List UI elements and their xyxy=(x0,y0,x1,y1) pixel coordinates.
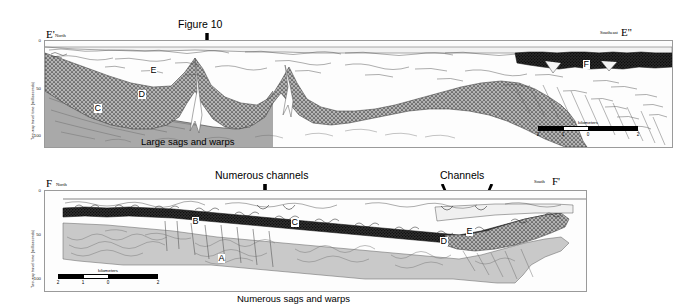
top-scalebar-bar xyxy=(538,126,638,131)
top-interior-note: Large sags and warps xyxy=(141,136,234,147)
scalebar-segment xyxy=(539,127,564,130)
bottom-right-end-label: F' xyxy=(552,176,560,187)
top-right-end-label: E'' xyxy=(621,27,632,38)
bottom-axis-tick-0: 0 xyxy=(34,188,41,193)
bottom-right-direction-label: South xyxy=(534,180,545,185)
top-scalebar-tick-1: 1 xyxy=(562,132,565,137)
figure-10-callout-label: Figure 10 xyxy=(178,18,222,30)
top-left-direction-label: North xyxy=(55,34,66,39)
bottom-scalebar-bar xyxy=(58,274,158,279)
bottom-scalebar: kilometers 2 1 0 2 xyxy=(58,268,158,290)
top-unit-label-F: F xyxy=(583,60,590,69)
bottom-axis-tick-100: 100 xyxy=(30,276,41,281)
scalebar-segment xyxy=(588,127,613,130)
top-left-end-label: E' xyxy=(46,29,55,40)
bottom-unit-label-B: B xyxy=(192,217,199,226)
bottom-axis-tick-50: 50 xyxy=(32,232,41,237)
scalebar-segment xyxy=(84,275,109,278)
scalebar-segment xyxy=(108,275,133,278)
scalebar-segment xyxy=(564,127,589,130)
top-axis-tick-0: 0 xyxy=(34,38,41,43)
top-right-direction-label: Southeast xyxy=(600,31,618,36)
bottom-panel: Numerous channels Channels F North South… xyxy=(0,160,675,305)
top-unit-label-E: E xyxy=(150,66,157,75)
bottom-unit-label-C: C xyxy=(291,218,299,227)
bottom-scalebar-tick-3: 2 xyxy=(157,280,160,285)
top-scalebar-ticks: 2 1 0 2 xyxy=(538,132,638,138)
bottom-interior-note: Numerous sags and warps xyxy=(237,293,350,304)
top-scalebar-tick-3: 2 xyxy=(637,132,640,137)
bottom-scalebar-title: kilometers xyxy=(58,268,158,273)
channels-callout-label: Channels xyxy=(440,169,484,181)
top-axis-tick-50: 50 xyxy=(32,86,41,91)
top-unit-label-D: D xyxy=(138,90,146,99)
bottom-scalebar-tick-0: 2 xyxy=(57,280,60,285)
bottom-scalebar-tick-2: 0 xyxy=(107,280,110,285)
scalebar-segment xyxy=(133,275,158,278)
bottom-left-end-label: F xyxy=(46,178,52,189)
top-scalebar-tick-0: 2 xyxy=(537,132,540,137)
scalebar-segment xyxy=(613,127,638,130)
top-panel: Figure 10 E' North Southeast E'' Two-way… xyxy=(0,0,675,160)
top-scalebar-title: kilometers xyxy=(538,120,638,125)
bottom-scalebar-ticks: 2 1 0 2 xyxy=(58,280,158,286)
seismic-profile-figure: Figure 10 E' North Southeast E'' Two-way… xyxy=(0,0,675,305)
numerous-channels-callout-label: Numerous channels xyxy=(215,169,308,181)
bottom-unit-label-A: A xyxy=(218,254,225,263)
bottom-scalebar-tick-1: 1 xyxy=(82,280,85,285)
top-unit-label-C: C xyxy=(94,104,102,113)
top-scalebar-tick-2: 0 xyxy=(587,132,590,137)
top-scalebar: kilometers 2 1 0 2 xyxy=(538,120,638,142)
bottom-left-direction-label: North xyxy=(56,183,67,188)
bottom-unit-label-E: E xyxy=(466,227,473,236)
scalebar-segment xyxy=(59,275,84,278)
top-axis-tick-100: 100 xyxy=(30,133,41,138)
bottom-unit-label-D: D xyxy=(440,237,448,246)
